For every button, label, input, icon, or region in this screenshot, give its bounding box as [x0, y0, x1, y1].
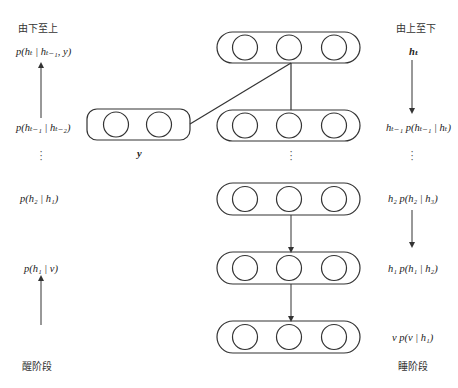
layer-h-t-minus-1 [217, 110, 360, 141]
left-label-top: p(hₜ | hₜ₋₁, y) [16, 47, 71, 58]
left-label-bottom: p(h₁ | v) [24, 264, 58, 275]
right-label-top: hₜ [409, 47, 419, 58]
right-phase-label: 睡阶段 [398, 362, 428, 372]
right-label-bottom: v p(v | h₁) [392, 333, 433, 344]
label-y: y [137, 149, 142, 160]
left-title: 由下至上 [18, 24, 58, 34]
layer-h-2 [217, 183, 360, 215]
layer-v [217, 321, 360, 353]
layer-h-t [217, 32, 360, 63]
left-phase-label: 醒阶段 [22, 362, 52, 372]
right-label-lower: h₁ p(h₁ | h₂) [388, 264, 438, 275]
layer-y [87, 109, 190, 140]
left-ellipsis: ··· [38, 150, 44, 162]
right-ellipsis: ··· [409, 150, 415, 162]
left-label-second: p(hₜ₋₁ | hₜ₋₂) [16, 123, 70, 134]
right-title: 由上至下 [396, 24, 436, 34]
right-label-second: hₜ₋₁ p(hₜ₋₁ | hₜ) [386, 123, 451, 134]
right-label-middle: h₂ p(h₂ | h₃) [388, 194, 438, 205]
unit-node [277, 35, 302, 60]
left-label-middle: p(h₂ | h₁) [20, 194, 58, 205]
network-ellipsis: ··· [288, 150, 294, 162]
wake-sleep-diagram: 由下至上 p(hₜ | hₜ₋₁, y) p(hₜ₋₁ | hₜ₋₂) ··· … [0, 0, 458, 388]
unit-node [322, 35, 347, 60]
layer-h-1 [217, 252, 360, 284]
unit-node [233, 35, 258, 60]
top-connections [190, 63, 291, 124]
